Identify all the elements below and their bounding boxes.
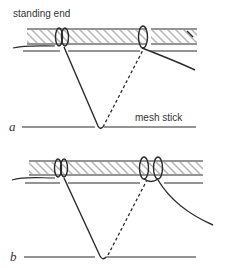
working-end-b [158, 180, 213, 225]
netting-knot-diagram: standing end [0, 0, 226, 268]
panel-a: standing end [9, 8, 197, 134]
standing-end-twine-b [12, 178, 55, 181]
foundation-cord-a [23, 29, 197, 51]
foundation-cord-b [25, 161, 203, 183]
twine-back-b [108, 180, 147, 255]
twine-front-b [64, 178, 106, 259]
standing-end-twine-a [13, 46, 55, 48]
standing-end-label: standing end [13, 8, 70, 19]
panel-b: b [10, 157, 213, 264]
mesh-stick-label: mesh stick [135, 112, 183, 123]
twine-front-a [64, 47, 103, 128]
panel-a-label: a [9, 119, 16, 134]
panel-b-label: b [10, 249, 17, 264]
